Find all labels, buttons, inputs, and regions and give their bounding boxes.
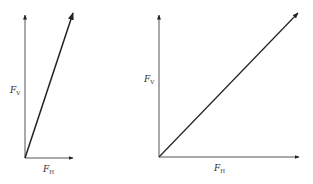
- diagram-left: FV FH: [9, 13, 73, 175]
- horizontal-force-label: FH: [42, 164, 54, 175]
- vertical-force-label: FV: [143, 74, 155, 85]
- force-diagrams: FV FH FV FH: [0, 0, 313, 184]
- resultant-force-arrow: [159, 13, 298, 157]
- resultant-force-arrow: [25, 13, 73, 158]
- vertical-force-label: FV: [9, 85, 21, 96]
- horizontal-force-label: FH: [213, 163, 225, 174]
- diagram-right: FV FH: [143, 13, 299, 174]
